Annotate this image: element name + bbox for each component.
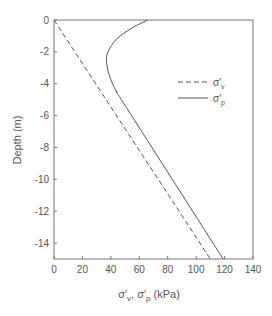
series-line-sigma-p <box>106 20 223 259</box>
x-tick-label: 140 <box>245 264 262 275</box>
y-tick-label: -4 <box>40 78 49 89</box>
y-tick-label: -10 <box>35 174 50 185</box>
legend-label-sigma-v: σ'v <box>213 77 225 90</box>
y-tick-label: -14 <box>35 238 50 249</box>
y-tick-label: -6 <box>40 110 49 121</box>
legend-label-sigma-p: σ'p <box>213 93 225 107</box>
x-tick-label: 60 <box>134 264 146 275</box>
x-tick-label: 20 <box>77 264 89 275</box>
depth-stress-chart: 020406080100120140 0-2-4-6-8-10-12-14 σ'… <box>0 0 272 316</box>
x-tick-label: 120 <box>216 264 233 275</box>
x-tick-label: 0 <box>51 264 57 275</box>
x-tick-label: 100 <box>188 264 205 275</box>
x-tick-label: 40 <box>105 264 117 275</box>
legend: σ'v σ'p <box>178 77 225 107</box>
plot-area <box>54 20 253 259</box>
series-line-sigma-v <box>54 20 210 259</box>
x-axis-label: σ'v, σ'p (kPa) <box>118 288 180 303</box>
y-tick-label: 0 <box>43 15 49 26</box>
plot-frame <box>54 20 253 259</box>
y-tick-label: -8 <box>40 142 49 153</box>
y-tick-label: -12 <box>35 206 50 217</box>
y-tick-label: -2 <box>40 46 49 57</box>
y-axis-label: Depth (m) <box>11 116 23 165</box>
x-tick-label: 80 <box>162 264 174 275</box>
